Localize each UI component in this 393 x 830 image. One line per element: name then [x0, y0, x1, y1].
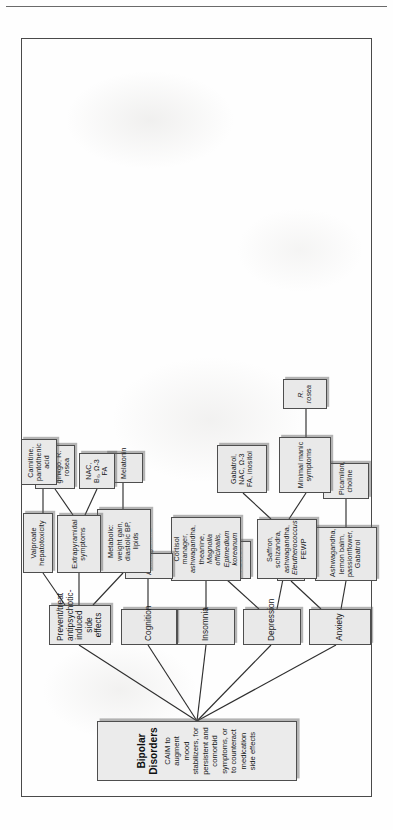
page-subtitle: CAIM to augment mood stabilizers, for pe…: [163, 727, 258, 775]
node-se-valproate[interactable]: Valproate hepatotoxicity: [23, 513, 53, 573]
node-ins-cortisol[interactable]: Cortisol manager, ashwagandha, theanine,…: [171, 517, 241, 581]
node-dep-r-rosea[interactable]: R. rosea: [283, 379, 327, 409]
node-cognition[interactable]: Cognition: [121, 609, 177, 645]
node-dep-gabatrol[interactable]: Gabatrol, NAC, Ω-3 FA, inositol: [217, 445, 267, 493]
node-dep-herbs[interactable]: Saffron, schizandra, ashwagandha, Eleuth…: [257, 519, 317, 579]
node-anx-herbs[interactable]: Ashwagandha, lemon balm, passionflower, …: [315, 527, 377, 581]
page-top-rule: [6, 6, 387, 7]
root-node-bipolar-disorders[interactable]: Bipolar Disorders CAIM to augment mood s…: [97, 721, 297, 781]
node-se-nac[interactable]: NAC, B₆, Ω-3 FA: [79, 453, 115, 489]
node-dep-herbs-label: Saffron, schizandra, ashwagandha, Eleuth…: [266, 523, 308, 575]
node-side-effects[interactable]: Prevent/treat antipsychotic-induced side…: [49, 605, 111, 645]
node-ins-cortisol-label: Cortisol manager, ashwagandha, theanine,…: [173, 521, 240, 577]
connector-lines: [21, 38, 370, 795]
rotated-diagram-canvas: Bipolar Disorders CAIM to augment mood s…: [21, 38, 370, 795]
node-depression[interactable]: Depression: [243, 609, 301, 645]
node-insomnia[interactable]: Insomnia: [177, 609, 235, 645]
node-se-carnitine[interactable]: Carnitine, pantothenic acid: [21, 439, 57, 485]
node-se-metabolic[interactable]: Metabolic: weight gain, diastolic BP, li…: [97, 509, 151, 573]
node-se-eps[interactable]: Extrapyramidal symptoms: [57, 515, 101, 573]
flowchart-canvas: Bipolar Disorders CAIM to augment mood s…: [21, 38, 370, 795]
node-dep-minimal-manic[interactable]: Minimal manic symptoms: [279, 437, 331, 493]
node-anxiety[interactable]: Anxiety: [309, 609, 371, 645]
page-title: Bipolar Disorders: [136, 727, 158, 775]
